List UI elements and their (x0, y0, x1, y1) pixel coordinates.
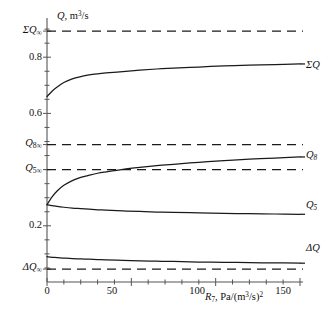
x-axis-title-unit-tail: /s) (249, 291, 260, 302)
x-axis-title-exponent-2: 2 (259, 291, 263, 299)
x-tick-label-50: 50 (100, 286, 124, 297)
y-tick-label-0.6: 0.6 (12, 108, 42, 119)
series-label-delta-q: ΔQ (306, 243, 320, 254)
series-label-q5: Q5 (306, 200, 317, 212)
axes-group (47, 18, 303, 282)
sigma-q-inf-subscript: ∞ (37, 28, 42, 37)
x-tick-label-150: 150 (269, 286, 297, 297)
y-tick-label-q8-infinity: Q8∞ (2, 138, 42, 149)
y-axis-title-unit-tail: /s (82, 10, 89, 21)
q8-subscript: 8 (314, 154, 318, 162)
y-axis-title-unit: , m (65, 10, 78, 21)
y-tick-label-sigma-q-infinity: ΣQ∞ (2, 25, 42, 36)
q5-symbol: Q (306, 199, 314, 210)
q8-inf-subscript: 8∞ (33, 141, 42, 150)
q8-inf-symbol: Q (25, 137, 33, 148)
sigma-q-inf-symbol: ΣQ (23, 24, 37, 35)
series-lines-group (47, 64, 305, 263)
y-tick-label-0.8: 0.8 (12, 52, 42, 63)
series-line-Q5 (47, 205, 300, 215)
x-axis-title-unit: , Pa/(m (215, 291, 245, 302)
y-tick-label-delta-q-infinity: ΔQ∞ (2, 262, 42, 273)
q5-inf-subscript: 5∞ (33, 166, 42, 175)
series-label-sigma-q: ΣQ (306, 60, 320, 71)
x-tick-label-0: 0 (37, 286, 57, 297)
y-tick-label-0.2: 0.2 (12, 220, 42, 231)
q5-inf-symbol: Q (25, 162, 33, 173)
chart-canvas (0, 0, 330, 322)
series-line-SigmaQ (47, 64, 300, 97)
x-axis-title: R7, Pa/(m3/s)2 (205, 292, 263, 304)
series-line-DeltaQ (47, 257, 300, 263)
y-axis-title-symbol: Q (57, 10, 65, 21)
asymptote-lines-group (47, 31, 303, 269)
series-line-Q8 (47, 157, 300, 205)
delta-q-inf-subscript: ∞ (37, 265, 42, 274)
q5-subscript: 5 (314, 204, 318, 212)
chart-figure: Q, m3/s R7, Pa/(m3/s)2 0.8 0.6 0.2 ΣQ∞ Q… (0, 0, 330, 322)
y-axis-title: Q, m3/s (57, 11, 89, 22)
y-tick-label-q5-infinity: Q5∞ (2, 163, 42, 174)
delta-q-inf-symbol: ΔQ (23, 261, 37, 272)
x-tick-label-100: 100 (183, 286, 211, 297)
q8-symbol: Q (306, 149, 314, 160)
series-label-q8: Q8 (306, 150, 317, 162)
